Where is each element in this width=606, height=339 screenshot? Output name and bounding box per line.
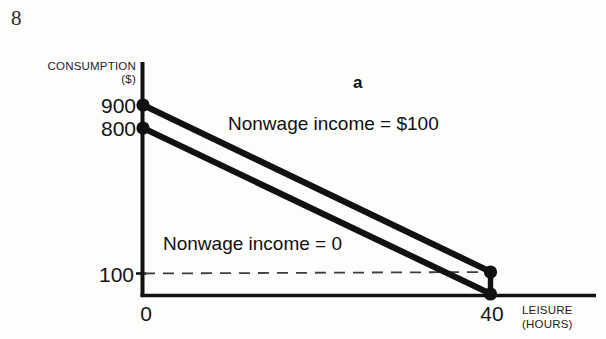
- y-tick-label-100: 100: [58, 264, 134, 285]
- y-tick-label-900: 900: [58, 95, 136, 116]
- y-axis-title: CONSUMPTION ($): [18, 60, 136, 86]
- point-marker-800: [136, 121, 149, 134]
- y-axis-title-text: CONSUMPTION: [48, 60, 136, 72]
- budget-line-nonwage-0: [143, 128, 491, 294]
- annotation-nonwage-income-100: Nonwage income = $100: [228, 114, 439, 133]
- y-axis-unit: ($): [18, 73, 136, 86]
- x-tick-label-40: 40: [472, 303, 512, 324]
- annotation-nonwage-income-0: Nonwage income = 0: [163, 234, 342, 253]
- figure-page: 8 CONSUMPTION ($) LEISURE (HOURS) 900 80…: [0, 0, 606, 339]
- x-tick-label-0: 0: [136, 303, 156, 324]
- x-axis-unit: (HOURS): [522, 317, 604, 331]
- point-marker-40-0: [484, 287, 497, 300]
- x-axis-title-text: LEISURE: [522, 304, 573, 316]
- budget-constraint-plot: [0, 0, 606, 339]
- x-axis-title: LEISURE (HOURS): [522, 303, 604, 331]
- point-marker-40-100: [484, 265, 497, 278]
- point-marker-900: [136, 98, 149, 111]
- panel-label: a: [353, 74, 362, 91]
- dashed-reference-line: [144, 272, 489, 274]
- y-tick-label-800: 800: [58, 118, 136, 139]
